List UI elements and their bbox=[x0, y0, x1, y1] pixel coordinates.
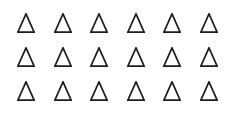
triangle-r2-c5 bbox=[154, 40, 191, 74]
triangle-outline-icon bbox=[54, 81, 72, 101]
triangle-outline-icon bbox=[200, 47, 218, 67]
triangle-r1-c2 bbox=[45, 6, 82, 40]
triangle-r1-c6 bbox=[191, 6, 228, 40]
triangle-grid bbox=[0, 0, 235, 114]
triangle-r3-c2 bbox=[45, 74, 82, 108]
triangle-outline-icon bbox=[90, 81, 108, 101]
triangle-outline-icon bbox=[17, 47, 35, 67]
triangle-r2-c4 bbox=[118, 40, 155, 74]
triangle-r3-c6 bbox=[191, 74, 228, 108]
triangle-r2-c6 bbox=[191, 40, 228, 74]
triangle-outline-icon bbox=[17, 13, 35, 33]
triangle-outline-icon bbox=[200, 13, 218, 33]
triangle-r3-c1 bbox=[8, 74, 45, 108]
triangle-outline-icon bbox=[127, 13, 145, 33]
triangle-outline-icon bbox=[90, 13, 108, 33]
triangle-r2-c2 bbox=[45, 40, 82, 74]
triangle-r3-c4 bbox=[118, 74, 155, 108]
triangle-outline-icon bbox=[54, 47, 72, 67]
triangle-outline-icon bbox=[163, 47, 181, 67]
triangle-outline-icon bbox=[163, 13, 181, 33]
triangle-outline-icon bbox=[90, 47, 108, 67]
triangle-r1-c1 bbox=[8, 6, 45, 40]
triangle-r1-c3 bbox=[81, 6, 118, 40]
triangle-outline-icon bbox=[127, 47, 145, 67]
triangle-r3-c5 bbox=[154, 74, 191, 108]
triangle-r3-c3 bbox=[81, 74, 118, 108]
triangle-outline-icon bbox=[163, 81, 181, 101]
triangle-r2-c3 bbox=[81, 40, 118, 74]
triangle-outline-icon bbox=[54, 13, 72, 33]
triangle-r2-c1 bbox=[8, 40, 45, 74]
triangle-r1-c4 bbox=[118, 6, 155, 40]
triangle-r1-c5 bbox=[154, 6, 191, 40]
triangle-outline-icon bbox=[127, 81, 145, 101]
stimulus-canvas bbox=[0, 0, 235, 114]
triangle-outline-icon bbox=[200, 81, 218, 101]
triangle-outline-icon bbox=[17, 81, 35, 101]
